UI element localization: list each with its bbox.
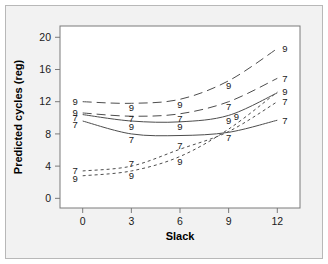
point-label: 9 bbox=[129, 170, 134, 181]
point-label: 9 bbox=[226, 80, 231, 91]
x-tick-label: 3 bbox=[128, 215, 134, 227]
point-label: 9 bbox=[226, 115, 231, 126]
x-tick-label: 12 bbox=[271, 215, 283, 227]
x-tick-label: 6 bbox=[177, 215, 183, 227]
figure-root: 048121620 036912 99777997977997979979979… bbox=[0, 0, 328, 264]
point-label: 7 bbox=[226, 101, 231, 112]
y-tick-label: 4 bbox=[45, 160, 51, 172]
point-label: 9 bbox=[72, 96, 77, 107]
x-tick-label: 0 bbox=[80, 215, 86, 227]
point-label: 7 bbox=[282, 115, 287, 126]
point-label: 9 bbox=[177, 156, 182, 167]
point-label: 7 bbox=[72, 119, 77, 130]
y-tick-label: 8 bbox=[45, 128, 51, 140]
point-label: 9 bbox=[129, 102, 134, 113]
x-axis-ticks: 036912 bbox=[80, 208, 284, 227]
y-tick-label: 12 bbox=[39, 95, 51, 107]
point-label: 7 bbox=[177, 140, 182, 151]
point-label: 7 bbox=[282, 73, 287, 84]
point-label: 7 bbox=[129, 158, 134, 169]
y-tick-label: 0 bbox=[45, 192, 51, 204]
point-label: 9 bbox=[177, 121, 182, 132]
y-axis-title: Predicted cycles (reg) bbox=[12, 60, 24, 175]
point-label: 7 bbox=[129, 134, 134, 145]
x-tick-label: 9 bbox=[226, 215, 232, 227]
x-axis-title: Slack bbox=[166, 230, 196, 242]
y-tick-label: 16 bbox=[39, 63, 51, 75]
point-label: 9 bbox=[72, 173, 77, 184]
point-label: 9 bbox=[177, 99, 182, 110]
point-label: 7 bbox=[226, 132, 231, 143]
point-label: 9 bbox=[129, 121, 134, 132]
line-chart: 048121620 036912 99777997977997979979979… bbox=[0, 0, 328, 264]
y-axis-ticks: 048121620 bbox=[39, 31, 60, 204]
point-label: 7 bbox=[282, 96, 287, 107]
y-tick-label: 20 bbox=[39, 31, 51, 43]
point-label: 9 bbox=[234, 111, 239, 122]
point-label: 9 bbox=[282, 43, 287, 54]
